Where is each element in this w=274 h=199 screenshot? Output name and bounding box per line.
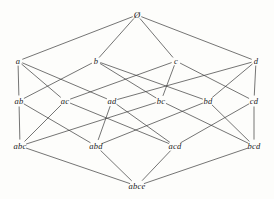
edge-c-bc (163, 66, 174, 96)
node-bcd: bcd (248, 142, 261, 151)
edge-bd-bcd (212, 105, 249, 141)
node-abc: abc (14, 142, 27, 151)
hasse-diagram-figure: Øabcdabacadbcbdcdabcabdacdbcdabce (0, 0, 274, 199)
edge-d-bd (213, 64, 253, 97)
edge-c-ac (71, 63, 172, 99)
edge-bcd-abce (144, 148, 247, 183)
edge-b-bc (100, 64, 156, 98)
node-b: b (94, 57, 98, 66)
edge-empty-b (99, 19, 133, 58)
edge-empty-a (23, 17, 133, 59)
edge-ab-abc (19, 107, 20, 139)
node-empty: Ø (134, 11, 141, 20)
node-acd: acd (169, 142, 182, 151)
edge-ad-abd (98, 107, 110, 140)
edge-bd-abd (102, 103, 202, 143)
edge-layer (0, 0, 274, 199)
node-a: a (16, 57, 20, 66)
node-c: c (174, 57, 178, 66)
edge-a-ab (18, 66, 19, 95)
node-d: d (254, 57, 258, 66)
edge-b-bd (101, 63, 203, 99)
edge-a-ad (23, 63, 107, 99)
node-cd: cd (250, 97, 258, 106)
node-bc: bc (157, 97, 165, 106)
edge-cd-acd (181, 104, 249, 143)
edge-d-ad (118, 62, 252, 99)
edge-a-ac (22, 64, 61, 97)
edge-empty-c (140, 19, 173, 57)
node-abce: abce (129, 182, 146, 191)
node-ad: ad (108, 97, 117, 106)
edge-d-cd (254, 66, 255, 95)
node-abd: abd (89, 142, 102, 151)
node-bd: bd (204, 97, 213, 106)
edge-ac-acd (70, 103, 168, 143)
edge-b-ab (24, 63, 91, 98)
edge-ab-abd (24, 104, 90, 143)
edge-c-cd (180, 63, 248, 98)
edge-abd-abce (101, 151, 132, 181)
edge-empty-d (142, 17, 252, 59)
edge-abc-abce (26, 148, 129, 183)
edge-bc-abc (26, 103, 155, 144)
edge-ad-acd (117, 104, 170, 142)
node-ab: ab (15, 97, 24, 106)
node-ac: ac (61, 97, 69, 106)
edge-ac-abc (25, 105, 61, 141)
edge-bc-bcd (166, 104, 248, 143)
